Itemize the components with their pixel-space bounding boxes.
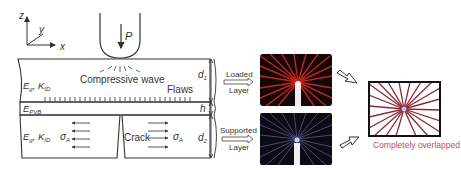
overlapped-result: Completely overlapped <box>369 82 460 150</box>
supported-layer-label: Layer <box>229 143 249 152</box>
h-label: h <box>200 103 206 114</box>
axis-x-label: x <box>59 41 66 52</box>
flaws-label: Flaws <box>167 84 193 95</box>
load-label: P <box>125 30 133 42</box>
d2-label: d2 <box>198 132 208 144</box>
merge-arrows <box>337 70 359 148</box>
coordinate-axes: z y x <box>18 10 66 52</box>
axis-y-label: y <box>38 24 45 35</box>
flaws-ticks <box>45 97 190 101</box>
loaded-layer-photo <box>260 54 332 106</box>
top-glass-layer: Compressive wave Eg, KID Flaws d1 <box>18 59 210 102</box>
d1-label: d1 <box>198 69 207 81</box>
pvb-material-label: EPVB <box>23 103 41 115</box>
indenter: P <box>100 13 140 58</box>
stress-right-arrows <box>148 123 168 147</box>
compressive-wave-label: Compressive wave <box>80 74 165 85</box>
supported-layer-arrow: Supported Layer <box>220 126 257 152</box>
bottom-glass-layer: Eg, KID σA Crack σA d2 <box>20 115 210 158</box>
stress-left-arrows <box>72 123 90 147</box>
stress-left-label: σA <box>60 131 70 143</box>
compressive-wave-rays <box>100 66 140 72</box>
supported-layer-photo <box>260 113 332 165</box>
supported-label: Supported <box>220 126 257 135</box>
axis-z-label: z <box>18 10 24 21</box>
pvb-interlayer: EPVB h <box>20 102 210 115</box>
top-material-label: Eg, KID <box>23 80 51 92</box>
crack-label: Crack <box>124 132 151 143</box>
bottom-material-label: Eg, KID <box>23 131 51 143</box>
stress-right-label: σA <box>173 131 183 143</box>
loaded-label: Loaded <box>226 70 253 79</box>
glass-impact-diagram: z y x P Compressive wave Eg, KID Flaws <box>0 0 461 170</box>
overlap-caption: Completely overlapped <box>373 140 460 150</box>
loaded-layer-label: Layer <box>229 86 249 95</box>
loaded-layer-arrow: Loaded Layer <box>224 70 253 95</box>
